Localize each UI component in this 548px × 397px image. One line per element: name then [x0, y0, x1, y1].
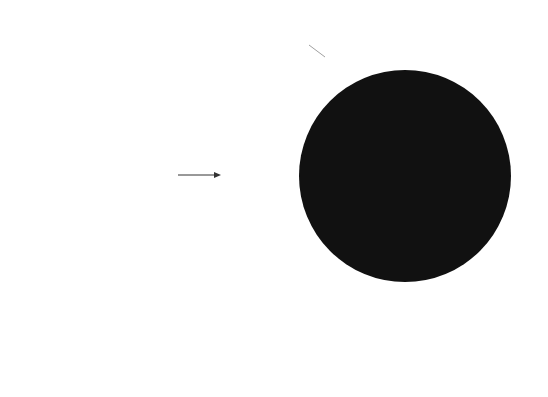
arrow-right-icon	[178, 172, 221, 178]
oleosin-pointer	[309, 45, 325, 57]
oil-body-formation-diagram	[0, 0, 548, 397]
triacylglycerol-core	[299, 70, 511, 282]
